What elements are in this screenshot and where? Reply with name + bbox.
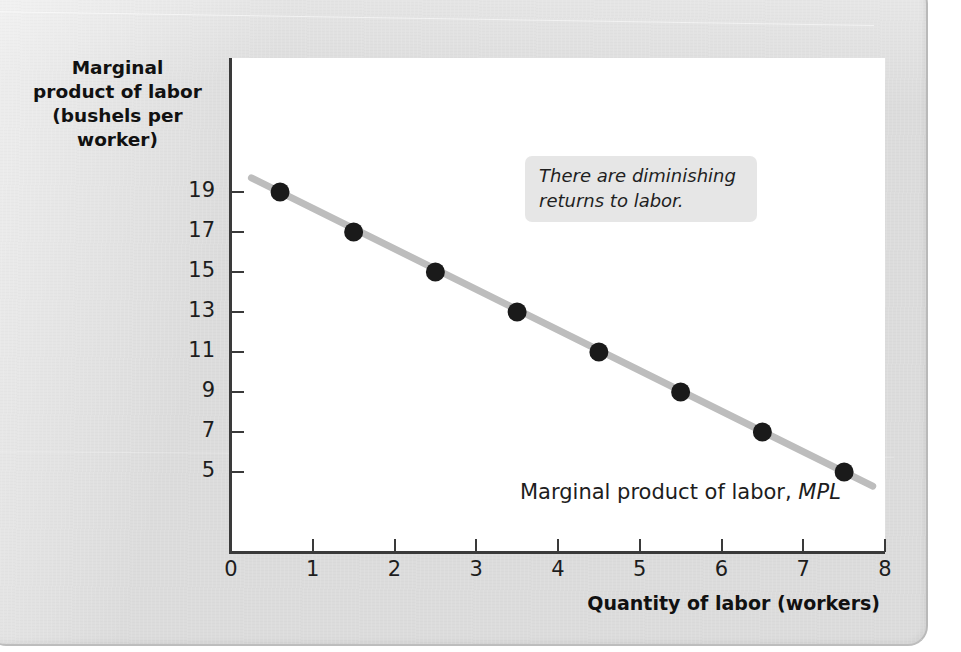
y-axis-tick xyxy=(231,391,244,393)
series-label: Marginal product of labor, MPL xyxy=(520,480,841,504)
y-axis-title-line: Marginal xyxy=(20,56,215,80)
y-axis-title-line: worker) xyxy=(20,128,215,152)
x-axis-tick xyxy=(394,539,396,552)
y-axis-tick-label: 15 xyxy=(175,258,215,282)
x-axis-tick xyxy=(884,539,886,552)
y-axis-title-line: product of labor xyxy=(20,80,215,104)
y-axis-tick xyxy=(231,471,244,473)
series-label-text: Marginal product of labor, xyxy=(520,480,798,504)
y-axis-tick-label: 19 xyxy=(175,178,215,202)
x-axis-tick-label: 3 xyxy=(456,557,496,581)
x-axis-title: Quantity of labor (workers) xyxy=(480,592,880,614)
x-axis-tick-label: 4 xyxy=(538,557,578,581)
y-axis-title: Marginal product of labor (bushels per w… xyxy=(20,56,215,152)
series-label-abbr: MPL xyxy=(798,480,840,504)
y-axis-tick-label: 17 xyxy=(175,218,215,242)
y-axis-tick xyxy=(231,271,244,273)
x-axis-tick xyxy=(557,539,559,552)
x-axis-tick xyxy=(721,539,723,552)
y-axis-tick xyxy=(231,431,244,433)
x-axis-tick-label: 1 xyxy=(293,557,333,581)
y-axis-line xyxy=(229,58,232,554)
y-axis-tick-label: 5 xyxy=(175,458,215,482)
x-axis-tick-label: 5 xyxy=(620,557,660,581)
x-axis-tick-label: 8 xyxy=(865,557,905,581)
y-axis-tick-label: 9 xyxy=(175,378,215,402)
y-axis-tick-label: 13 xyxy=(175,298,215,322)
y-axis-tick xyxy=(231,191,244,193)
x-axis-tick xyxy=(802,539,804,552)
x-axis-tick-label: 2 xyxy=(375,557,415,581)
y-axis-tick-label: 7 xyxy=(175,418,215,442)
annotation-callout: There are diminishing returns to labor. xyxy=(525,156,757,222)
x-axis-tick xyxy=(639,539,641,552)
y-axis-tick-label: 11 xyxy=(175,338,215,362)
x-axis-tick-label: 0 xyxy=(211,557,251,581)
y-axis-tick xyxy=(231,311,244,313)
plot-background xyxy=(231,58,885,552)
x-axis-tick-label: 7 xyxy=(783,557,823,581)
x-axis-tick xyxy=(475,539,477,552)
y-axis-title-line: (bushels per xyxy=(20,104,215,128)
x-axis-tick-label: 6 xyxy=(702,557,742,581)
y-axis-tick xyxy=(231,351,244,353)
chart-area: Marginal product of labor (bushels per w… xyxy=(0,0,961,652)
y-axis-tick xyxy=(231,231,244,233)
x-axis-tick xyxy=(312,539,314,552)
